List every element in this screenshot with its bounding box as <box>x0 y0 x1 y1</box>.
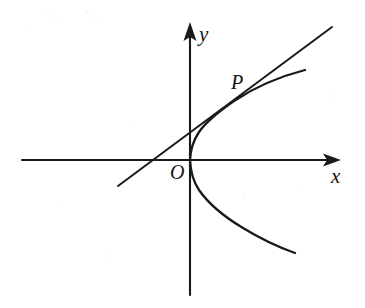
y-axis-label: y <box>199 24 208 45</box>
tangent-point-label: P <box>231 72 243 92</box>
tangent-line <box>118 27 332 186</box>
geometry-diagram <box>0 0 365 308</box>
origin-label: O <box>170 162 184 182</box>
x-axis-label: x <box>331 166 340 187</box>
figure-canvas: y x O P <box>0 0 365 308</box>
parabola-upper-branch <box>190 70 305 160</box>
parabola-lower-branch <box>190 160 295 253</box>
